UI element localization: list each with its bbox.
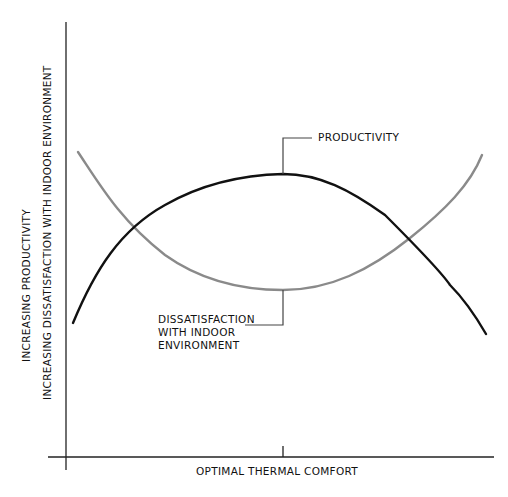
x-axis-label: OPTIMAL THERMAL COMFORT	[196, 465, 358, 477]
chart-canvas	[0, 0, 508, 497]
dissatisfaction-curve	[78, 152, 482, 290]
dissatisfaction-label-line1: DISSATISFACTION	[158, 313, 255, 326]
y-axis-label-dissatisfaction: INCREASING DISSATISFACTION WITH INDOOR E…	[41, 65, 53, 400]
dissatisfaction-label-line3: ENVIRONMENT	[158, 339, 255, 352]
dissatisfaction-label: DISSATISFACTION WITH INDOOR ENVIRONMENT	[158, 313, 255, 352]
productivity-leader	[283, 138, 312, 174]
dissatisfaction-label-line2: WITH INDOOR	[158, 326, 255, 339]
y-axis-label-productivity: INCREASING PRODUCTIVITY	[20, 209, 32, 362]
productivity-label: PRODUCTIVITY	[318, 131, 399, 143]
productivity-curve	[73, 174, 486, 334]
